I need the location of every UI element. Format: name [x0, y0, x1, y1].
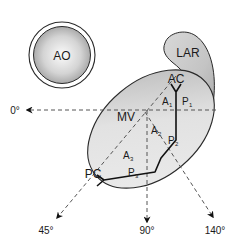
svg-text:P: P	[182, 96, 189, 107]
angle-140-label: 140°	[205, 225, 226, 236]
aorta-label: AO	[53, 49, 70, 63]
angle-0-label: 0°	[10, 105, 20, 116]
pc-label: PC	[85, 167, 102, 181]
angle-90-label: 90°	[139, 225, 154, 236]
svg-text:P: P	[128, 167, 135, 178]
aorta: AO	[29, 22, 95, 88]
ac-label: AC	[168, 72, 185, 86]
mitral-valve-diagram: AO LAR AC PC MV A 1	[0, 0, 246, 243]
svg-text:P: P	[168, 135, 175, 146]
svg-text:A: A	[162, 96, 169, 107]
angle-45-label: 45°	[38, 225, 53, 236]
mv-label: MV	[117, 110, 135, 124]
svg-text:A: A	[123, 150, 130, 161]
svg-text:A: A	[151, 125, 158, 136]
lar-label: LAR	[176, 46, 200, 60]
